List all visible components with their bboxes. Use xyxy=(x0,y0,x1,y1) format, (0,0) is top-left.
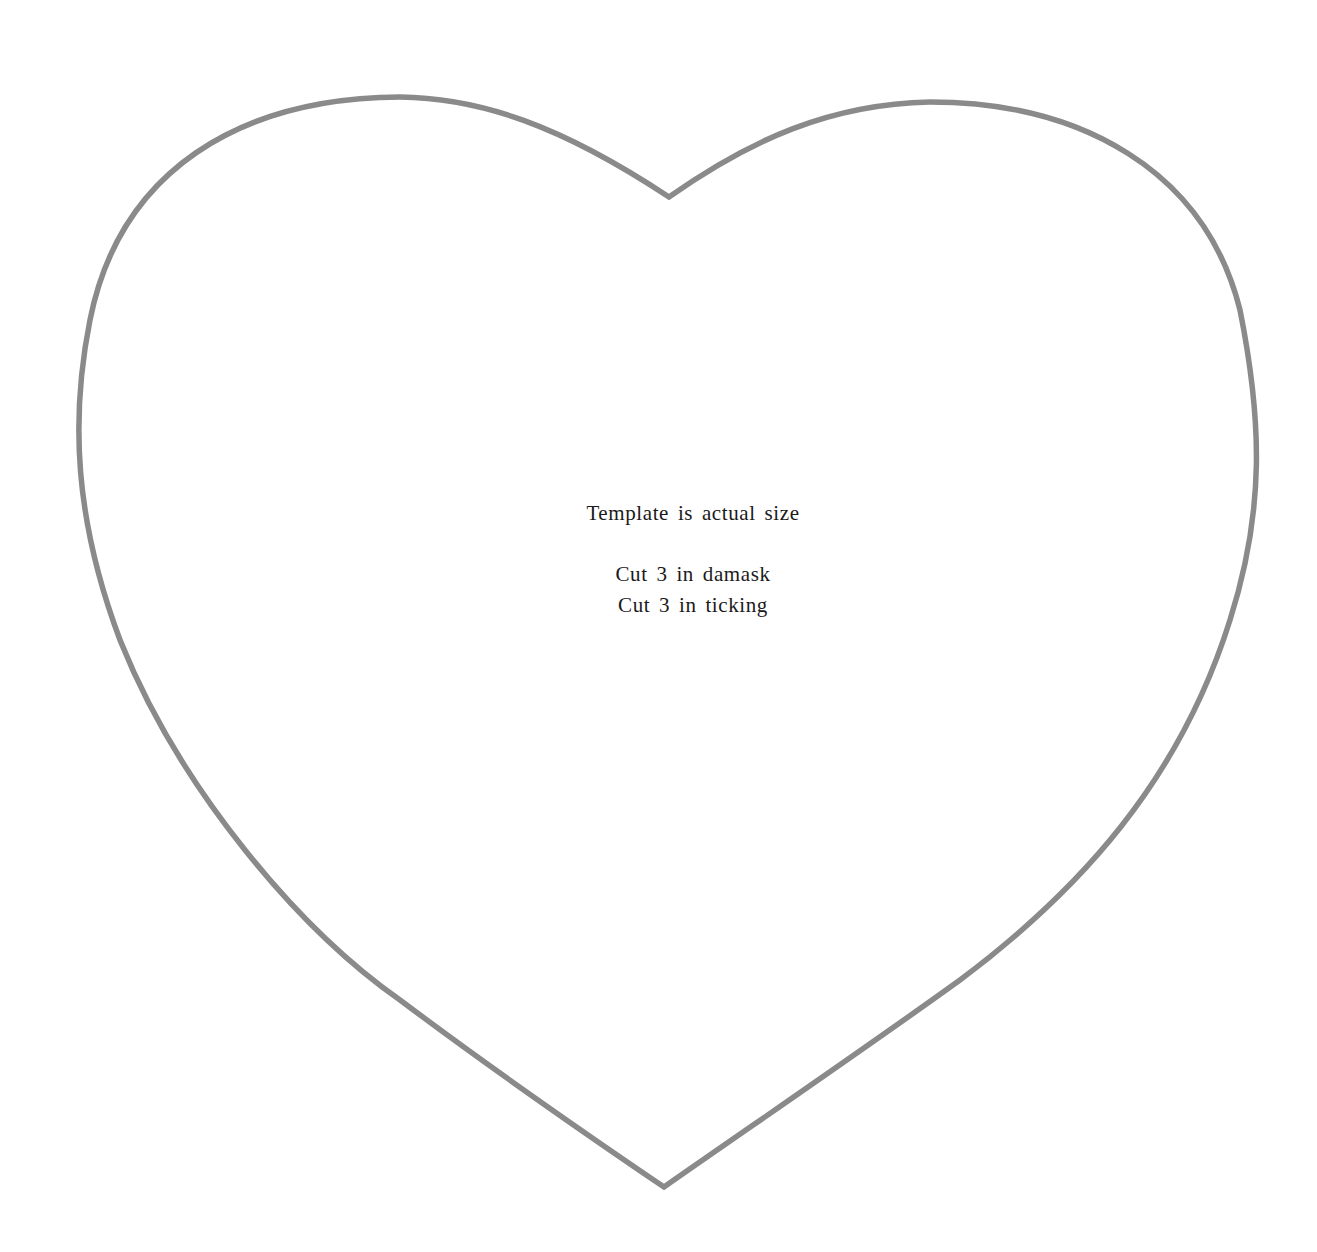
heart-outline-icon xyxy=(0,0,1317,1252)
cut-instruction-ticking: Cut 3 in ticking xyxy=(0,592,1317,619)
size-note: Template is actual size xyxy=(0,500,1317,527)
cut-instruction-damask: Cut 3 in damask xyxy=(0,561,1317,588)
heart-outline xyxy=(79,97,1257,1187)
heart-template-page: Template is actual size Cut 3 in damask … xyxy=(0,0,1317,1252)
